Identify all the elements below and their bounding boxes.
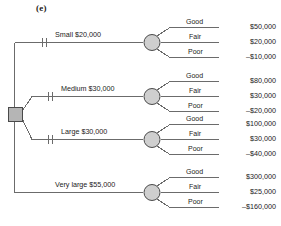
payoff-very-large-poor: –$160,000 — [220, 203, 276, 211]
figure-caption: (e) — [36, 3, 47, 13]
payoff-very-large-fair: $25,000 — [220, 188, 276, 196]
payoff-small-fair: $20,000 — [220, 38, 276, 46]
state-label-large-fair: Fair — [189, 130, 201, 138]
state-label-medium-fair: Fair — [189, 87, 201, 95]
state-label-very-large-poor: Poor — [188, 198, 203, 206]
payoff-small-good: $50,000 — [220, 23, 276, 31]
state-label-large-poor: Poor — [188, 145, 203, 153]
chance-node-very-large[interactable] — [144, 185, 160, 201]
state-label-medium-good: Good — [186, 72, 203, 80]
outcome-line-very-large-good — [157, 178, 219, 187]
state-label-very-large-good: Good — [186, 168, 203, 176]
alternative-label-very-large: Very large $55,000 — [55, 181, 115, 189]
branch-line-medium — [23, 97, 144, 111]
payoff-medium-good: $80,000 — [220, 77, 276, 85]
payoff-medium-poor: –$20,000 — [220, 107, 276, 115]
outcome-line-small-good — [157, 28, 219, 37]
outcome-line-large-good — [157, 125, 219, 134]
alternative-label-large: Large $30,000 — [61, 128, 107, 136]
state-label-very-large-fair: Fair — [189, 183, 201, 191]
state-label-small-fair: Fair — [189, 33, 201, 41]
decision-tree-figure: (e) Small $20,000 Medium $30,000 Large $… — [0, 0, 281, 226]
payoff-large-fair: $30,000 — [220, 135, 276, 143]
chance-node-medium[interactable] — [144, 89, 160, 105]
state-label-small-good: Good — [186, 18, 203, 26]
alternative-label-medium: Medium $30,000 — [61, 85, 115, 93]
state-label-large-good: Good — [186, 115, 203, 123]
decision-node-square[interactable] — [9, 108, 23, 122]
state-label-medium-poor: Poor — [188, 102, 203, 110]
chance-node-small[interactable] — [144, 35, 160, 51]
payoff-large-good: $100,000 — [220, 120, 276, 128]
payoff-small-poor: –$10,000 — [220, 53, 276, 61]
payoff-medium-fair: $30,000 — [220, 92, 276, 100]
payoff-large-poor: –$40,000 — [220, 150, 276, 158]
state-label-small-poor: Poor — [188, 48, 203, 56]
payoff-very-large-good: $300,000 — [220, 173, 276, 181]
outcome-line-medium-good — [157, 82, 219, 91]
chance-node-large[interactable] — [144, 132, 160, 148]
alternative-label-small: Small $20,000 — [55, 31, 101, 39]
